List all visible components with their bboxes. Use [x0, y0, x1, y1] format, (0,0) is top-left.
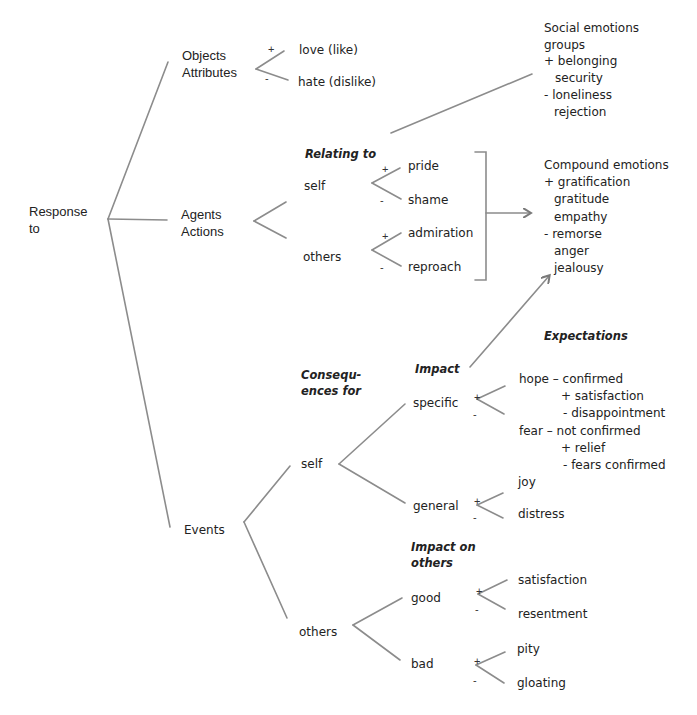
leaf-pity: pity — [517, 641, 540, 658]
line-root-objects — [108, 62, 168, 219]
leaf-distress: distress — [518, 506, 564, 523]
heading-impact: Impact — [415, 361, 460, 377]
expectations-list: hope – confirmed + satisfaction - disapp… — [519, 371, 666, 474]
node-agents-others: others — [303, 249, 341, 266]
line-social-emotions — [391, 74, 532, 133]
leaf-resentment: resentment — [518, 606, 587, 623]
sign-plus: + — [474, 392, 480, 403]
heading-expectations: Expectations — [544, 328, 628, 344]
node-events-others: others — [299, 624, 337, 641]
leaf-reproach: reproach — [408, 259, 461, 276]
node-objects-attributes: Objects Attributes — [182, 48, 237, 81]
line-root-agents — [108, 219, 167, 220]
heading-impact-on-others: Impact on others — [411, 539, 476, 571]
compound-emotions-title: Compound emotions — [544, 157, 669, 174]
node-events: Events — [184, 522, 225, 539]
leaf-others-satisfaction: satisfaction — [518, 572, 587, 589]
sign-plus: + — [474, 656, 480, 667]
leaf-admiration: admiration — [408, 225, 473, 242]
node-response-to: Response to — [29, 204, 88, 237]
leaf-love: love (like) — [299, 42, 358, 59]
social-emotions-box: Social emotions groups + belonging secur… — [544, 20, 639, 120]
sign-plus: + — [268, 44, 274, 55]
leaf-hope-satisfaction: + satisfaction — [519, 388, 666, 405]
node-good: good — [411, 590, 441, 607]
node-events-self: self — [301, 456, 322, 473]
compound-emotions-box: Compound emotions + gratification gratit… — [544, 157, 669, 277]
sign-plus: + — [476, 586, 482, 597]
line-root-events — [108, 219, 170, 527]
leaf-hope: hope – confirmed — [519, 371, 666, 388]
node-agents-self: self — [304, 178, 325, 195]
bracket-agents — [475, 152, 486, 280]
sign-minus: - — [380, 262, 384, 273]
node-agents-actions: Agents Actions — [181, 207, 224, 240]
leaf-hate: hate (dislike) — [298, 74, 376, 91]
sign-plus: + — [382, 164, 388, 175]
node-bad: bad — [411, 656, 434, 673]
arrow-expectations — [470, 276, 549, 367]
heading-relating-to: Relating to — [305, 146, 376, 162]
sign-minus: - — [265, 73, 269, 84]
leaf-pride: pride — [408, 158, 439, 175]
node-general: general — [413, 498, 459, 515]
leaf-shame: shame — [408, 192, 448, 209]
sign-minus: - — [473, 409, 477, 420]
sign-plus: + — [382, 231, 388, 242]
social-emotions-title: Social emotions — [544, 20, 639, 37]
leaf-gloating: gloating — [517, 675, 566, 692]
leaf-fears-confirmed: - fears confirmed — [519, 457, 666, 474]
sign-plus: + — [474, 496, 480, 507]
sign-minus: - — [473, 512, 477, 523]
leaf-fear-relief: + relief — [519, 440, 666, 457]
sign-minus: - — [475, 604, 479, 615]
leaf-hope-disappointment: - disappointment — [519, 405, 666, 422]
sign-minus: - — [473, 675, 477, 686]
sign-minus: - — [380, 195, 384, 206]
leaf-joy: joy — [518, 474, 536, 491]
leaf-fear: fear – not confirmed — [519, 423, 666, 440]
node-specific: specific — [413, 395, 458, 412]
heading-consequences-for: Consequ- ences for — [301, 367, 361, 399]
